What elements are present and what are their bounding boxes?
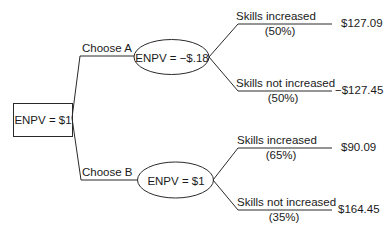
a-outcome-1-value: $127.09 [341,17,383,30]
a-outcome-1-label: Skills increased [236,10,316,23]
b-outcome-1-label: Skills increased [237,134,317,147]
a-outcome-1-probability: (50%) [265,25,296,38]
choose-a-branch-line [72,56,134,118]
b-outcome-2-probability: (35%) [269,211,300,224]
chance-node-b-label: ENPV = $1 [147,175,204,188]
a-outcome-2-label: Skills not increased [236,77,335,90]
b-outcome-2-label: Skills not increased [237,196,336,209]
choose-b-label: Choose B [82,166,133,179]
choose-a-label: Choose A [82,42,132,55]
chance-node-a-label: ENPV = −$.18 [135,52,209,65]
b-outcome-2-value: $164.45 [338,203,380,216]
a-outcome-2-probability: (50%) [268,92,299,105]
b-outcome-1-probability: (65%) [266,149,297,162]
b-outcome-1-value: $90.09 [341,141,376,154]
a-outcome-2-value: −$127.45 [335,84,383,97]
root-enpv-label: ENPV = $1 [14,114,71,127]
